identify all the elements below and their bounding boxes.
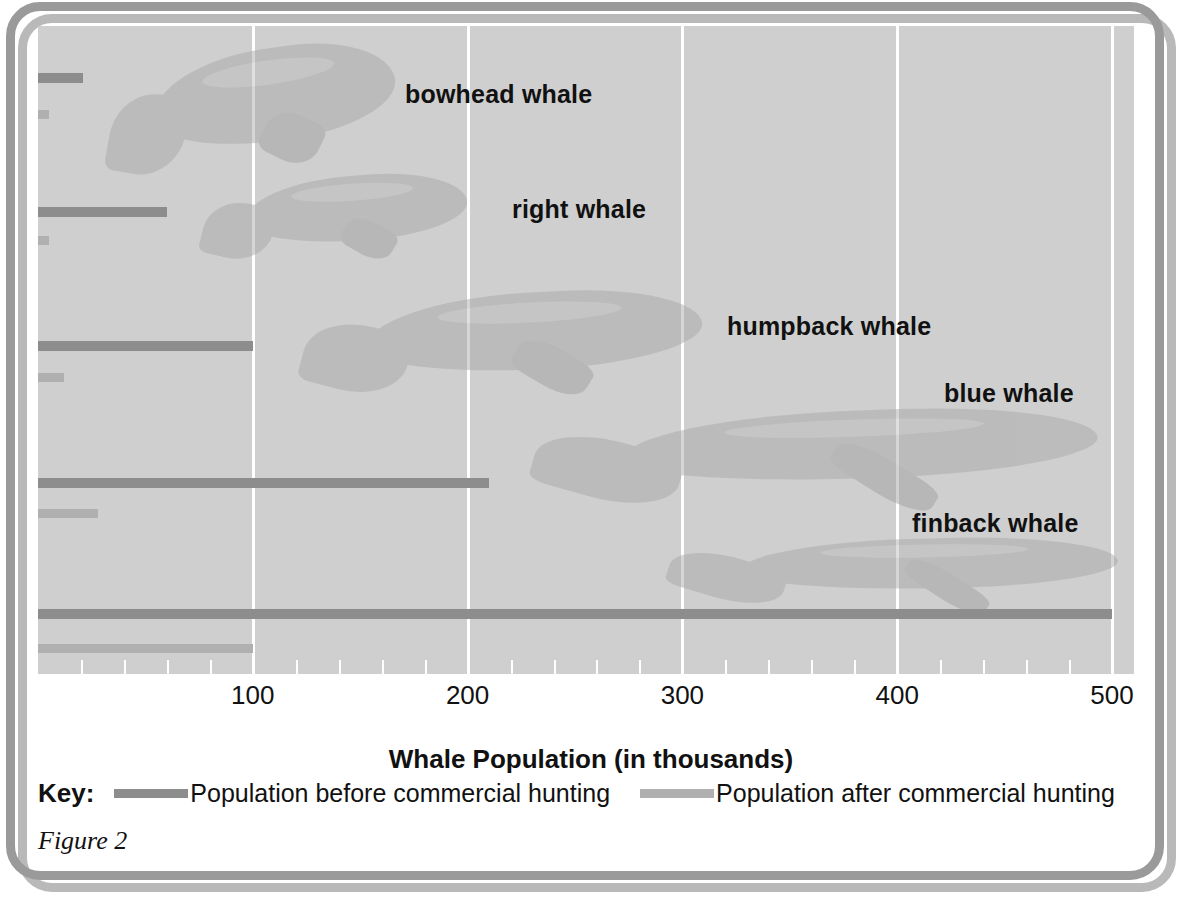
bar-before-humpback-whale [38,341,253,351]
minor-tick-180 [425,660,427,674]
chart-key: Key: Population before commercial huntin… [38,776,1115,810]
legend-label-before: Population before commercial hunting [190,779,610,808]
whale-tail [104,87,193,181]
minor-tick-340 [768,660,770,674]
whale-highlight [200,51,335,93]
whale-body [365,283,705,378]
whale-fin [255,103,328,172]
bar-after-humpback-whale [38,373,64,382]
minor-tick-460 [1026,660,1028,674]
x-tick-label-400: 400 [875,680,918,711]
bar-after-right-whale [38,236,49,245]
x-tick-label-300: 300 [661,680,704,711]
bar-before-right-whale [38,207,167,217]
minor-tick-80 [210,660,212,674]
whale-body [243,167,470,247]
species-label-finback-whale: finback whale [912,509,1079,538]
whale-illustration-blue-whale [531,391,1099,521]
minor-tick-120 [296,660,298,674]
whale-illustration-right-whale [200,157,472,280]
whale-highlight [821,543,1028,559]
species-label-humpback-whale: humpback whale [727,312,931,341]
minor-tick-240 [554,660,556,674]
gridline-300 [681,26,684,674]
minor-tick-60 [167,660,169,674]
bar-after-bowhead-whale [38,110,49,119]
minor-tick-360 [811,660,813,674]
whale-illustration-humpback-whale [300,271,706,417]
legend-swatch-after [640,789,714,798]
bar-before-finback-whale [38,609,1112,619]
minor-tick-280 [639,660,641,674]
minor-tick-20 [81,660,83,674]
whale-illustration-finback-whale [667,527,1118,615]
minor-tick-160 [382,660,384,674]
major-tick-200 [467,656,470,674]
whale-highlight [291,179,414,204]
chart-plot-area: bowhead whaleright whalehumpback whalebl… [38,26,1134,674]
whale-tail [296,311,414,404]
legend-item-after[interactable]: Population after commercial hunting [640,779,1115,808]
minor-tick-320 [725,660,727,674]
minor-tick-420 [940,660,942,674]
legend-label-after: Population after commercial hunting [716,779,1115,808]
figure-caption: Figure 2 [38,826,127,856]
key-label: Key: [38,778,94,809]
gridline-200 [467,26,470,674]
axis-title: Whale Population (in thousands) [0,744,1182,775]
legend-item-before[interactable]: Population before commercial hunting [114,779,610,808]
species-label-bowhead-whale: bowhead whale [405,80,592,109]
species-label-blue-whale: blue whale [944,379,1074,408]
minor-tick-40 [124,660,126,674]
bar-after-blue-whale [38,509,98,518]
x-tick-label-100: 100 [231,680,274,711]
bar-before-blue-whale [38,478,489,488]
legend-swatch-before [114,789,188,798]
whale-highlight [437,297,622,327]
whale-highlight [724,415,984,442]
bar-before-bowhead-whale [38,73,83,83]
x-axis: 100200300400500 [38,674,1134,734]
minor-tick-260 [596,660,598,674]
whale-body [622,402,1099,487]
whale-tail [198,195,279,268]
major-tick-500 [1111,656,1114,674]
bar-after-finback-whale [38,644,253,653]
minor-tick-440 [983,660,985,674]
minor-tick-480 [1069,660,1071,674]
species-label-right-whale: right whale [512,195,646,224]
x-tick-label-500: 500 [1090,680,1133,711]
x-tick-label-200: 200 [446,680,489,711]
whale-fin [508,329,597,404]
minor-tick-140 [339,660,341,674]
whale-fin [337,210,400,266]
whale-tail [528,420,686,519]
major-tick-400 [896,656,899,674]
whale-body [147,31,401,157]
whale-body [739,535,1118,591]
major-tick-100 [252,656,255,674]
gridline-500 [1111,26,1114,674]
gridline-400 [896,26,899,674]
major-tick-300 [681,656,684,674]
minor-tick-220 [511,660,513,674]
minor-tick-380 [854,660,856,674]
figure-container: bowhead whaleright whalehumpback whalebl… [0,0,1182,906]
